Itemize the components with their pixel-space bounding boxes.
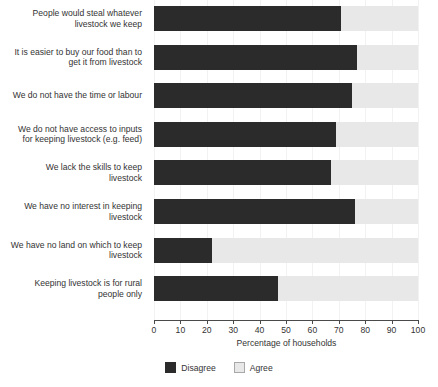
x-axis-tick-label: 70 bbox=[326, 325, 352, 336]
category-label-line: for keeping livestock (e.g. feed) bbox=[23, 134, 142, 144]
x-axis-tick-mark bbox=[312, 320, 313, 324]
x-axis-tick-label: 100 bbox=[405, 325, 431, 336]
bar-segment-disagree bbox=[154, 122, 336, 147]
x-axis-tick-mark bbox=[286, 320, 287, 324]
x-axis-tick-mark bbox=[207, 320, 208, 324]
category-label-line: livestock bbox=[109, 173, 142, 183]
bar-row bbox=[154, 45, 418, 70]
legend-swatch-agree bbox=[234, 362, 245, 373]
chart-legend: DisagreeAgree bbox=[0, 362, 438, 373]
stacked-bar-chart: People would steal whateverlivestock we … bbox=[0, 0, 438, 387]
category-label: We have no land on which to keeplivestoc… bbox=[0, 240, 142, 261]
bar-segment-agree bbox=[331, 160, 418, 185]
bar-segment-disagree bbox=[154, 276, 278, 301]
category-label-line: We lack the skills to keep bbox=[46, 162, 142, 172]
x-axis-tick-mark bbox=[260, 320, 261, 324]
legend-label: Agree bbox=[250, 363, 273, 373]
category-label-line: livestock bbox=[109, 250, 142, 260]
bar-segment-agree bbox=[357, 45, 418, 70]
bar-row bbox=[154, 276, 418, 301]
bar-segment-agree bbox=[212, 238, 418, 263]
x-axis-title: Percentage of households bbox=[154, 338, 419, 348]
category-label-line: Keeping livestock is for rural bbox=[35, 278, 142, 288]
bar-segment-agree bbox=[278, 276, 418, 301]
x-axis-tick-label: 20 bbox=[194, 325, 220, 336]
x-axis-tick-mark bbox=[180, 320, 181, 324]
bar-segment-disagree bbox=[154, 45, 357, 70]
category-label-line: livestock bbox=[109, 212, 142, 222]
x-axis-tick-label: 10 bbox=[167, 325, 193, 336]
category-label: Keeping livestock is for ruralpeople onl… bbox=[0, 278, 142, 299]
x-axis-tick-label: 30 bbox=[220, 325, 246, 336]
bar-row bbox=[154, 199, 418, 224]
bar-row bbox=[154, 83, 418, 108]
category-label-line: We have no interest in keeping bbox=[24, 201, 142, 211]
bar-segment-disagree bbox=[154, 160, 331, 185]
x-axis-tick-mark bbox=[154, 320, 155, 324]
x-axis-tick-label: 80 bbox=[352, 325, 378, 336]
category-label: We lack the skills to keeplivestock bbox=[0, 162, 142, 183]
x-axis-tick-mark bbox=[392, 320, 393, 324]
x-axis-tick-mark bbox=[339, 320, 340, 324]
legend-item[interactable]: Agree bbox=[234, 362, 273, 373]
category-label: We do not have access to inputsfor keepi… bbox=[0, 124, 142, 145]
bar-segment-disagree bbox=[154, 6, 341, 31]
category-label: We have no interest in keepinglivestock bbox=[0, 201, 142, 222]
bar-segment-disagree bbox=[154, 238, 212, 263]
bar-segment-agree bbox=[352, 83, 418, 108]
bar-segment-disagree bbox=[154, 199, 355, 224]
category-label-line: people only bbox=[98, 289, 142, 299]
legend-label: Disagree bbox=[181, 363, 215, 373]
x-axis-tick-label: 90 bbox=[379, 325, 405, 336]
bar-segment-agree bbox=[341, 6, 418, 31]
plot-area bbox=[154, 0, 418, 320]
x-axis-tick-mark bbox=[365, 320, 366, 324]
bar-row bbox=[154, 122, 418, 147]
category-label-column: People would steal whateverlivestock we … bbox=[0, 0, 148, 320]
category-label-line: We do not have access to inputs bbox=[18, 124, 142, 134]
x-axis-tick-mark bbox=[418, 320, 419, 324]
category-label-line: It is easier to buy our food than to bbox=[14, 47, 142, 57]
category-label-line: We have no land on which to keep bbox=[11, 240, 142, 250]
x-axis-tick-label: 40 bbox=[247, 325, 273, 336]
category-label-line: get it from livestock bbox=[68, 57, 142, 67]
legend-swatch-disagree bbox=[165, 362, 176, 373]
category-label: We do not have the time or labour bbox=[0, 90, 142, 101]
gridline bbox=[418, 0, 419, 320]
bar-row bbox=[154, 238, 418, 263]
category-label-line: livestock we keep bbox=[75, 19, 142, 29]
bar-row bbox=[154, 6, 418, 31]
category-label-line: We do not have the time or labour bbox=[13, 90, 142, 100]
legend-item[interactable]: Disagree bbox=[165, 362, 215, 373]
bar-row bbox=[154, 160, 418, 185]
x-axis-tick-mark bbox=[233, 320, 234, 324]
bar-segment-agree bbox=[336, 122, 418, 147]
category-label: People would steal whateverlivestock we … bbox=[0, 8, 142, 29]
x-axis-tick-label: 0 bbox=[141, 325, 167, 336]
x-axis-tick-label: 50 bbox=[273, 325, 299, 336]
x-axis-tick-label: 60 bbox=[299, 325, 325, 336]
bar-segment-agree bbox=[355, 199, 418, 224]
category-label: It is easier to buy our food than toget … bbox=[0, 47, 142, 68]
bar-segment-disagree bbox=[154, 83, 352, 108]
category-label-line: People would steal whatever bbox=[33, 8, 142, 18]
